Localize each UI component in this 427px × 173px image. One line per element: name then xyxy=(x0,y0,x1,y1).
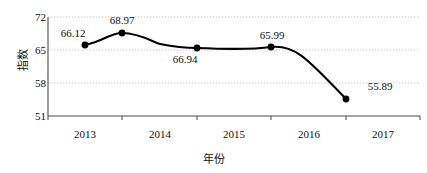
data-point-2013 xyxy=(82,42,89,49)
x-axis-tick-label-2017: 2017 xyxy=(353,128,413,140)
data-series-line xyxy=(85,33,346,99)
x-axis-tick-label-2013: 2013 xyxy=(55,128,115,140)
data-label-2013: 66.12 xyxy=(48,28,98,39)
data-label-2016: 65.99 xyxy=(247,30,297,41)
data-point-2014 xyxy=(119,30,126,37)
data-label-2015: 66.94 xyxy=(160,54,210,65)
axis-lines xyxy=(48,17,420,120)
data-point-2017 xyxy=(343,96,350,103)
line-chart: 指数 72 65 58 51 66.12 68.97 66. xyxy=(0,0,427,173)
x-axis-title: 年份 xyxy=(0,150,427,166)
x-axis-tick-label-2016: 2016 xyxy=(279,128,339,140)
data-point-2015 xyxy=(194,45,201,52)
data-markers xyxy=(82,30,350,103)
x-axis-tick-label-2014: 2014 xyxy=(130,128,190,140)
data-label-2017: 55.89 xyxy=(355,81,405,92)
data-label-2014: 68.97 xyxy=(97,15,147,26)
data-point-2016 xyxy=(268,44,275,51)
gridlines xyxy=(48,17,420,83)
x-axis-tick-label-2015: 2015 xyxy=(204,128,264,140)
